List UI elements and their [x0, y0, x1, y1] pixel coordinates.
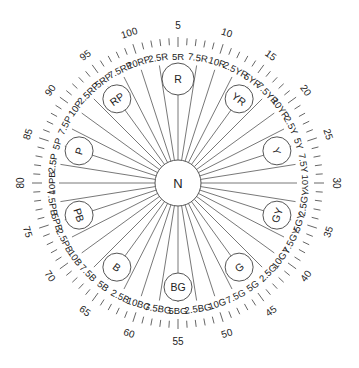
tick-mark: [34, 200, 41, 201]
hue-label: 5B: [95, 278, 111, 294]
major-tick: [133, 44, 136, 54]
hue-label: 7.5P: [56, 114, 75, 136]
scale-number: 95: [77, 47, 93, 63]
tick-mark: [212, 43, 214, 50]
scale-number: 65: [77, 303, 93, 319]
tick-mark: [86, 71, 90, 76]
tick-mark: [36, 209, 43, 210]
tick-mark: [195, 320, 196, 327]
tick-mark: [303, 121, 309, 124]
tick-mark: [56, 257, 62, 261]
tick-mark: [108, 56, 111, 62]
tick-mark: [204, 319, 205, 326]
tick-mark: [51, 249, 57, 252]
tick-mark: [244, 304, 247, 310]
major-tick: [288, 263, 296, 269]
tick-mark: [306, 234, 313, 237]
tick-mark: [142, 317, 144, 324]
hue-label: 5G: [244, 278, 261, 294]
tick-mark: [142, 43, 144, 50]
tick-mark: [38, 147, 45, 149]
tick-mark: [229, 48, 232, 55]
hue-label: 10RP: [126, 53, 152, 71]
tick-mark: [34, 165, 41, 166]
hue-label: 7.5Y: [296, 153, 310, 175]
major-tick: [220, 312, 223, 322]
tick-mark: [195, 39, 196, 46]
major-tick: [220, 44, 223, 54]
major-tick: [307, 138, 317, 141]
scale-number: 75: [21, 225, 35, 239]
major-tick: [92, 293, 98, 301]
tick-mark: [295, 105, 301, 109]
scale-number: 90: [42, 82, 58, 98]
tick-mark: [51, 113, 57, 116]
tick-mark: [272, 77, 277, 82]
scale-number: 85: [21, 127, 35, 141]
tick-mark: [279, 84, 284, 89]
major-tick: [258, 65, 264, 73]
tick-mark: [315, 165, 322, 166]
tick-mark: [79, 77, 84, 82]
tick-mark: [314, 209, 321, 210]
scale-number: 60: [122, 326, 136, 340]
tick-mark: [125, 311, 128, 318]
tick-mark: [237, 308, 240, 314]
tick-mark: [151, 319, 152, 326]
hue-spoke: [201, 164, 296, 179]
hue-label: 2.5Y: [282, 114, 301, 137]
major-tick: [39, 138, 49, 141]
hue-label: 7.5G: [224, 287, 247, 306]
tick-mark: [299, 249, 305, 252]
major-tick: [92, 65, 98, 73]
tick-mark: [212, 317, 214, 324]
tick-mark: [108, 304, 111, 310]
tick-mark: [66, 91, 71, 95]
major-tick: [39, 225, 49, 228]
scale-number: 20: [298, 82, 314, 98]
munsell-hue-wheel: 5101520253035404550556065707580859095100…: [0, 0, 359, 368]
tick-mark: [151, 41, 152, 48]
tick-mark: [79, 284, 84, 289]
tick-mark: [116, 52, 119, 58]
tick-mark: [56, 105, 62, 109]
tick-mark: [66, 271, 71, 275]
tick-mark: [237, 52, 240, 58]
tick-mark: [284, 271, 289, 275]
neutral-label: N: [173, 176, 182, 191]
hue-spoke: [188, 203, 232, 289]
tick-mark: [244, 56, 247, 62]
scale-number: 70: [42, 268, 58, 284]
scale-number: 40: [298, 268, 314, 284]
tick-mark: [47, 242, 53, 245]
tick-mark: [47, 121, 53, 124]
major-tick: [60, 263, 68, 269]
tick-mark: [160, 320, 161, 327]
scale-number: 100: [120, 25, 140, 41]
scale-number: 5: [175, 20, 181, 31]
scale-number: 35: [321, 224, 335, 238]
tick-mark: [72, 277, 77, 282]
tick-mark: [125, 48, 128, 55]
tick-mark: [299, 113, 305, 116]
hue-spoke: [194, 199, 262, 267]
scale-number: 30: [331, 177, 342, 189]
tick-mark: [36, 156, 43, 157]
scale-number: 10: [220, 26, 234, 40]
tick-mark: [100, 300, 104, 306]
tick-mark: [43, 130, 50, 133]
tick-mark: [272, 284, 277, 289]
tick-mark: [279, 277, 284, 282]
hue-label: 5R: [172, 51, 184, 62]
major-tick: [133, 312, 136, 322]
scale-number: 15: [263, 47, 279, 63]
hue-spoke: [188, 77, 232, 163]
hue-spoke: [124, 203, 168, 289]
tick-mark: [312, 217, 319, 219]
tick-mark: [204, 41, 205, 48]
tick-mark: [86, 289, 90, 294]
hue-spoke: [201, 187, 296, 202]
major-tick: [60, 97, 68, 103]
tick-mark: [306, 130, 313, 133]
tick-mark: [266, 71, 270, 76]
